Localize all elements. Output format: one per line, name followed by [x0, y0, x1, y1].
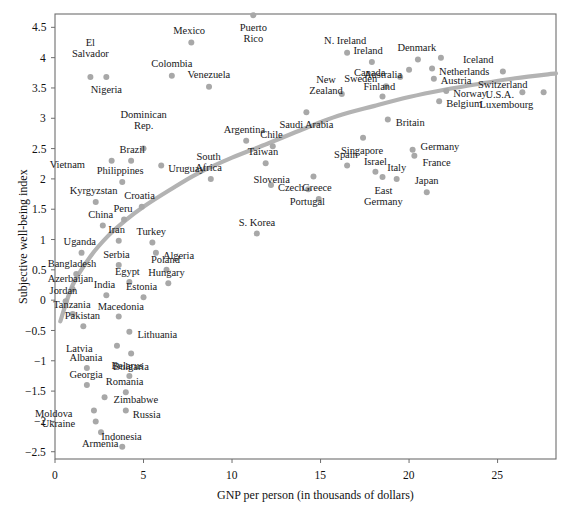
data-point — [431, 76, 437, 82]
data-point — [406, 67, 412, 73]
data-point — [519, 89, 525, 95]
data-point — [126, 279, 132, 285]
data-point — [119, 444, 125, 450]
data-point — [149, 240, 155, 246]
data-point — [541, 89, 547, 95]
data-point — [128, 158, 134, 164]
data-point — [123, 389, 129, 395]
data-point — [141, 146, 147, 152]
data-point — [98, 429, 104, 435]
data-point — [100, 223, 106, 229]
plot-canvas — [0, 0, 563, 510]
data-point — [63, 298, 69, 304]
data-point — [165, 280, 171, 286]
data-point — [254, 230, 260, 236]
data-point — [139, 204, 145, 210]
data-point — [410, 147, 416, 153]
data-point — [103, 74, 109, 80]
data-point — [188, 39, 194, 45]
data-point — [344, 50, 350, 56]
data-point — [411, 153, 417, 159]
data-point — [70, 286, 76, 292]
data-point — [385, 116, 391, 122]
data-point — [429, 66, 435, 72]
data-point — [436, 98, 442, 104]
data-point — [158, 163, 164, 169]
data-point — [169, 73, 175, 79]
data-point — [73, 271, 79, 277]
data-point — [360, 135, 366, 141]
data-point — [102, 394, 108, 400]
data-point — [84, 382, 90, 388]
data-point — [339, 91, 345, 97]
data-point — [128, 351, 134, 357]
figure-background — [0, 0, 563, 510]
data-point — [316, 196, 322, 202]
data-point — [500, 69, 506, 75]
data-point — [164, 267, 170, 273]
data-point — [79, 250, 85, 256]
data-point — [206, 84, 212, 90]
data-point — [443, 88, 449, 94]
data-point — [380, 93, 386, 99]
data-point — [80, 323, 86, 329]
data-point — [121, 217, 127, 223]
data-point — [394, 176, 400, 182]
data-point — [438, 55, 444, 61]
data-point — [243, 138, 249, 144]
data-point — [369, 59, 375, 65]
data-point — [310, 173, 316, 179]
data-point — [397, 74, 403, 80]
data-point — [270, 143, 276, 149]
scatter-plot-figure: Subjective well-being index GNP per pers… — [0, 0, 563, 510]
data-point — [84, 365, 90, 371]
data-point — [87, 74, 93, 80]
data-point — [268, 182, 274, 188]
data-point — [103, 292, 109, 298]
data-point — [141, 294, 147, 300]
data-point — [116, 238, 122, 244]
data-point — [116, 314, 122, 320]
data-point — [126, 373, 132, 379]
data-point — [250, 12, 256, 18]
data-point — [415, 56, 421, 62]
data-point — [123, 408, 129, 414]
data-point — [93, 199, 99, 205]
data-point — [208, 176, 214, 182]
data-point — [119, 179, 125, 185]
data-point — [344, 163, 350, 169]
data-point — [424, 189, 430, 195]
data-point — [263, 160, 269, 166]
data-point — [305, 186, 311, 192]
data-point — [114, 343, 120, 349]
data-point — [91, 408, 97, 414]
data-point — [303, 109, 309, 115]
data-point — [109, 158, 115, 164]
data-point — [116, 262, 122, 268]
data-point — [372, 169, 378, 175]
data-point — [383, 83, 389, 89]
data-point — [153, 250, 159, 256]
data-point — [380, 174, 386, 180]
data-point — [126, 329, 132, 335]
data-point — [70, 311, 76, 317]
data-point — [93, 418, 99, 424]
